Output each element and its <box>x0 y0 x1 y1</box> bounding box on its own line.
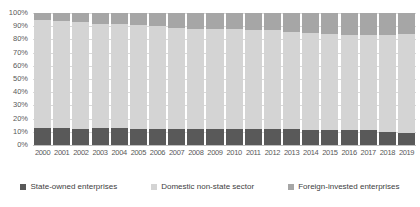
bar-segment-foreign-invested[interactable] <box>360 13 377 35</box>
bar-segment-state-owned[interactable] <box>245 129 262 145</box>
x-axis-tick-label: 2000 <box>33 147 52 159</box>
legend-item[interactable]: Foreign-invested enterprises <box>288 182 399 191</box>
bar-segment-state-owned[interactable] <box>130 129 147 145</box>
bar-segment-foreign-invested[interactable] <box>321 13 338 34</box>
bar-segment-state-owned[interactable] <box>53 128 70 145</box>
bar-segment-foreign-invested[interactable] <box>149 13 166 26</box>
legend-item[interactable]: State-owned enterprises <box>20 182 117 191</box>
bar-segment-foreign-invested[interactable] <box>264 13 281 30</box>
bar-segment-state-owned[interactable] <box>206 129 223 145</box>
bar-column[interactable] <box>360 13 377 145</box>
bar-segment-domestic-non-state[interactable] <box>206 29 223 129</box>
bar-segment-domestic-non-state[interactable] <box>187 29 204 129</box>
x-axis-tick-label: 2016 <box>340 147 359 159</box>
bar-segment-state-owned[interactable] <box>341 130 358 145</box>
bar-segment-state-owned[interactable] <box>168 129 185 145</box>
bar-segment-state-owned[interactable] <box>34 128 51 145</box>
bar-column[interactable] <box>226 13 243 145</box>
bar-column[interactable] <box>379 13 396 145</box>
bar-segment-domestic-non-state[interactable] <box>321 34 338 130</box>
bar-column[interactable] <box>321 13 338 145</box>
bar-column[interactable] <box>130 13 147 145</box>
bar-segment-foreign-invested[interactable] <box>72 13 89 22</box>
bar-segment-domestic-non-state[interactable] <box>53 21 70 128</box>
bar-segment-foreign-invested[interactable] <box>34 13 51 20</box>
bar-column[interactable] <box>264 13 281 145</box>
bar-segment-foreign-invested[interactable] <box>283 13 300 31</box>
y-axis-tick-label: 10% <box>13 128 28 136</box>
bar-column[interactable] <box>168 13 185 145</box>
bar-segment-state-owned[interactable] <box>302 130 319 145</box>
x-axis-tick-label: 2005 <box>129 147 148 159</box>
bar-segment-domestic-non-state[interactable] <box>92 24 109 128</box>
bar-segment-foreign-invested[interactable] <box>226 13 243 29</box>
bar-segment-state-owned[interactable] <box>149 129 166 145</box>
bar-column[interactable] <box>92 13 109 145</box>
bar-segment-state-owned[interactable] <box>379 132 396 145</box>
square-swatch-icon <box>151 184 157 190</box>
bar-column[interactable] <box>53 13 70 145</box>
bar-segment-foreign-invested[interactable] <box>341 13 358 35</box>
bar-segment-state-owned[interactable] <box>398 133 415 145</box>
bar-segment-domestic-non-state[interactable] <box>34 20 51 128</box>
bar-segment-foreign-invested[interactable] <box>130 13 147 25</box>
bar-column[interactable] <box>245 13 262 145</box>
bar-segment-domestic-non-state[interactable] <box>264 30 281 129</box>
bar-segment-foreign-invested[interactable] <box>111 13 128 24</box>
y-axis: 100%90%80%70%60%50%40%30%20%10%0% <box>0 13 31 145</box>
bar-segment-domestic-non-state[interactable] <box>245 30 262 129</box>
bar-segment-domestic-non-state[interactable] <box>168 28 185 130</box>
bar-segment-foreign-invested[interactable] <box>187 13 204 29</box>
bar-column[interactable] <box>341 13 358 145</box>
bar-segment-foreign-invested[interactable] <box>398 13 415 34</box>
bar-segment-domestic-non-state[interactable] <box>379 35 396 131</box>
bar-column[interactable] <box>149 13 166 145</box>
bar-segment-state-owned[interactable] <box>283 129 300 145</box>
legend-item-label: Foreign-invested enterprises <box>298 182 399 191</box>
bar-segment-state-owned[interactable] <box>360 130 377 145</box>
bar-segment-domestic-non-state[interactable] <box>341 35 358 130</box>
bar-segment-domestic-non-state[interactable] <box>226 29 243 129</box>
bar-segment-domestic-non-state[interactable] <box>360 35 377 130</box>
bar-segment-domestic-non-state[interactable] <box>72 22 89 129</box>
bar-segment-domestic-non-state[interactable] <box>283 32 300 130</box>
bar-segment-foreign-invested[interactable] <box>168 13 185 28</box>
bar-column[interactable] <box>72 13 89 145</box>
x-axis-tick-label: 2014 <box>301 147 320 159</box>
bar-segment-foreign-invested[interactable] <box>92 13 109 24</box>
bar-segment-foreign-invested[interactable] <box>206 13 223 29</box>
y-axis-tick-label: 50% <box>13 75 28 83</box>
bar-column[interactable] <box>187 13 204 145</box>
bar-segment-state-owned[interactable] <box>187 129 204 145</box>
bar-segment-state-owned[interactable] <box>111 128 128 145</box>
bar-segment-state-owned[interactable] <box>321 130 338 145</box>
bar-column[interactable] <box>302 13 319 145</box>
bar-segment-state-owned[interactable] <box>72 129 89 145</box>
y-axis-tick-label: 20% <box>13 115 28 123</box>
legend-item[interactable]: Domestic non-state sector <box>151 182 254 191</box>
x-axis-tick-label: 2015 <box>320 147 339 159</box>
bar-segment-foreign-invested[interactable] <box>379 13 396 35</box>
bar-segment-state-owned[interactable] <box>264 129 281 145</box>
bar-segment-foreign-invested[interactable] <box>53 13 70 21</box>
y-axis-tick-label: 0% <box>17 141 28 149</box>
bar-segment-domestic-non-state[interactable] <box>130 25 147 129</box>
bar-column[interactable] <box>398 13 415 145</box>
x-axis-tick-label: 2011 <box>244 147 263 159</box>
bar-segment-foreign-invested[interactable] <box>302 13 319 33</box>
bar-segment-domestic-non-state[interactable] <box>302 33 319 131</box>
bar-segment-state-owned[interactable] <box>226 129 243 145</box>
bar-segment-domestic-non-state[interactable] <box>111 24 128 128</box>
y-axis-tick-label: 80% <box>13 35 28 43</box>
bar-segment-domestic-non-state[interactable] <box>398 34 415 133</box>
bar-column[interactable] <box>283 13 300 145</box>
bar-column[interactable] <box>34 13 51 145</box>
x-axis-tick-label: 2002 <box>71 147 90 159</box>
bar-segment-domestic-non-state[interactable] <box>149 26 166 129</box>
y-axis-tick-label: 60% <box>13 62 28 70</box>
x-axis-tick-label: 2018 <box>378 147 397 159</box>
bar-column[interactable] <box>206 13 223 145</box>
bar-column[interactable] <box>111 13 128 145</box>
bar-segment-foreign-invested[interactable] <box>245 13 262 30</box>
bar-segment-state-owned[interactable] <box>92 128 109 145</box>
